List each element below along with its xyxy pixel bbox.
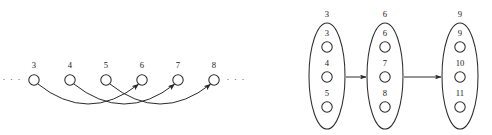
group-9-member-10-circle[interactable] [455,72,465,82]
figure-container: · · · · · · 3 4 5 [0,0,492,135]
group-9-member-10-label: 10 [456,58,465,68]
group-9-member-11-label: 11 [456,88,464,98]
group-3-member-3-label: 3 [325,28,329,38]
node-7-label: 7 [176,60,181,70]
group-9-member-11-circle[interactable] [455,102,465,112]
group-6-member-7-circle[interactable] [380,72,390,82]
group-3-label: 3 [325,9,329,19]
group-3-member-3-circle[interactable] [322,42,332,52]
group-3-member-5-circle[interactable] [322,102,332,112]
left-panel: · · · · · · 3 4 5 [3,60,246,104]
node-5-label: 5 [104,60,108,70]
node-6-label: 6 [140,60,145,70]
group-6-member-8-label: 8 [383,88,387,98]
node-6[interactable]: 6 [137,60,147,85]
group-9-label: 9 [458,9,462,19]
group-9[interactable]: 9 9 10 11 [442,9,478,129]
group-9-member-9-label: 9 [458,28,462,38]
group-6-member-6-circle[interactable] [380,42,390,52]
node-7-circle[interactable] [173,75,183,85]
node-3-label: 3 [32,60,36,70]
group-3-member-5-label: 5 [325,88,329,98]
left-ellipsis-leading: · · · [3,74,22,84]
node-3-circle[interactable] [29,75,39,85]
group-6-label: 6 [383,9,388,19]
group-6[interactable]: 6 6 7 8 [367,9,403,129]
node-7[interactable]: 7 [173,60,183,85]
node-5[interactable]: 5 [101,60,111,85]
node-8-label: 8 [212,60,216,70]
left-ellipsis-trailing: · · · [227,74,246,84]
node-4-circle[interactable] [65,75,75,85]
right-panel: 3 3 4 5 6 6 7 8 9 [309,9,478,129]
node-8-circle[interactable] [209,75,219,85]
group-3[interactable]: 3 3 4 5 [309,9,345,129]
group-3-member-4-circle[interactable] [322,72,332,82]
node-8[interactable]: 8 [209,60,219,85]
node-5-circle[interactable] [101,75,111,85]
node-4-label: 4 [68,60,73,70]
group-6-member-7-label: 7 [383,58,388,68]
node-3[interactable]: 3 [29,60,39,85]
node-6-circle[interactable] [137,75,147,85]
left-panel-nodes: 3 4 5 6 7 [29,60,219,85]
group-6-member-6-label: 6 [383,28,388,38]
node-4[interactable]: 4 [65,60,75,85]
graph-figure: · · · · · · 3 4 5 [0,0,492,135]
group-9-member-9-circle[interactable] [455,42,465,52]
group-6-member-8-circle[interactable] [380,102,390,112]
group-3-member-4-label: 4 [325,58,330,68]
left-panel-edges [38,84,211,104]
